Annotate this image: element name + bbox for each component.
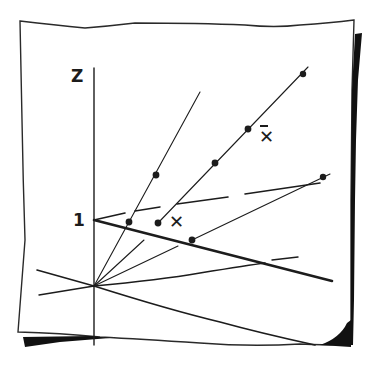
paper-shadow-bottom bbox=[23, 336, 110, 347]
x-bar-point-marker: ✕ bbox=[259, 128, 274, 146]
paper-shadow-right bbox=[351, 33, 362, 345]
sketch-diagram bbox=[0, 0, 367, 380]
x-point-marker: ✕ bbox=[169, 213, 184, 231]
dot bbox=[126, 219, 133, 226]
paper-outline bbox=[18, 20, 354, 345]
x-bar-cross: ✕ bbox=[259, 126, 274, 147]
dot bbox=[320, 174, 326, 180]
unit-mark-label: 1 bbox=[73, 212, 85, 229]
dot bbox=[155, 220, 162, 227]
dot bbox=[189, 237, 196, 244]
dot bbox=[212, 160, 219, 167]
z-axis-label: Z bbox=[71, 68, 83, 85]
dot bbox=[153, 172, 160, 179]
dot bbox=[245, 126, 252, 133]
dot bbox=[300, 71, 306, 77]
x-bar-overline bbox=[260, 125, 268, 127]
